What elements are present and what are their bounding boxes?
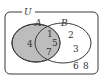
- region-outside-value: 6: [73, 61, 79, 71]
- region-outside-value: 8: [83, 61, 89, 71]
- region-b-only-value: 3: [73, 44, 79, 54]
- region-a-only-value: 4: [27, 39, 33, 49]
- set-a-label: A: [34, 18, 42, 28]
- region-b-only-value: 2: [68, 30, 74, 40]
- region-intersection-value: 5: [52, 38, 58, 48]
- universe-label: U: [24, 7, 32, 17]
- venn-diagram: U A B 4 1 5 7 2 3 6 8: [0, 0, 102, 80]
- region-intersection-value: 7: [46, 47, 52, 57]
- set-b-label: B: [60, 18, 68, 28]
